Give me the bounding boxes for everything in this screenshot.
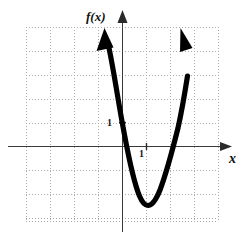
y-axis-label: f(x) [86,10,106,23]
x-axis-label: x [229,152,236,166]
y-axis-tick-label-1: 1 [107,118,112,128]
parabola-plot [0,0,245,241]
graph-figure: f(x) x 1 1 [0,0,245,241]
x-axis [8,142,232,151]
x-axis-tick-label-1: 1 [139,149,144,159]
